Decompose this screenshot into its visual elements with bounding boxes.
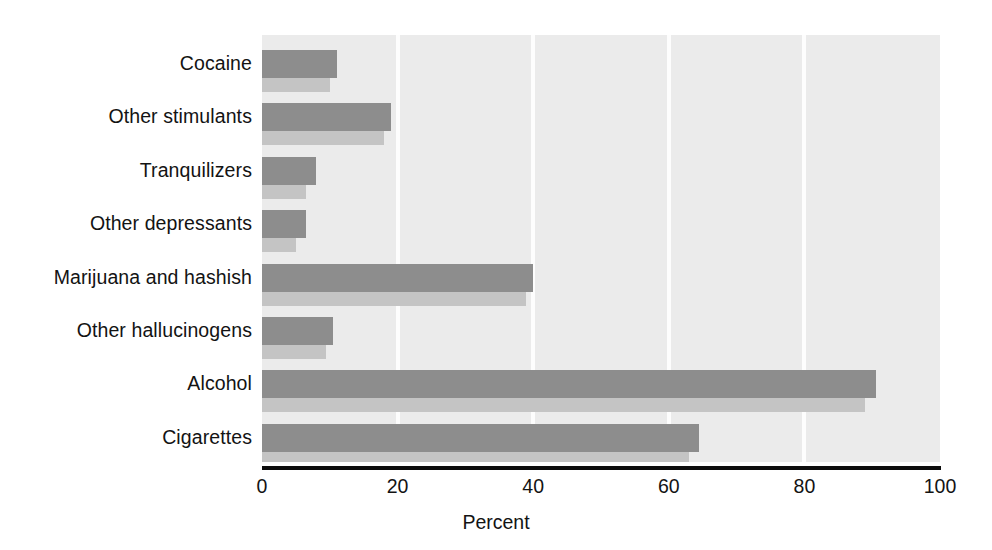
bar-series-1 bbox=[262, 370, 876, 398]
x-tick-label: 20 bbox=[387, 477, 409, 497]
category-label: Cocaine bbox=[0, 54, 252, 74]
x-tick-label: 0 bbox=[257, 477, 268, 497]
bar-series-1 bbox=[262, 103, 391, 131]
horizontal-bar-chart: CocaineOther stimulantsTranquilizersOthe… bbox=[0, 0, 992, 550]
category-label: Other depressants bbox=[0, 214, 252, 234]
category-label: Marijuana and hashish bbox=[0, 268, 252, 288]
bar-group bbox=[262, 88, 940, 141]
bar-series-1 bbox=[262, 50, 337, 78]
bar-group bbox=[262, 302, 940, 355]
category-label: Tranquilizers bbox=[0, 161, 252, 181]
x-axis-title-text: Percent bbox=[462, 511, 529, 533]
bar-group bbox=[262, 355, 940, 408]
x-tick-label: 40 bbox=[522, 477, 544, 497]
bar-series-1 bbox=[262, 157, 316, 185]
bar-series-1 bbox=[262, 210, 306, 238]
category-label: Alcohol bbox=[0, 374, 252, 394]
category-label: Other hallucinogens bbox=[0, 321, 252, 341]
x-tick-label: 60 bbox=[658, 477, 680, 497]
bar-group bbox=[262, 195, 940, 248]
category-label: Cigarettes bbox=[0, 428, 252, 448]
x-axis-line bbox=[262, 466, 941, 470]
bar-series-1 bbox=[262, 317, 333, 345]
category-label: Other stimulants bbox=[0, 107, 252, 127]
bar-group bbox=[262, 409, 940, 462]
bar-series-1 bbox=[262, 424, 699, 452]
x-tick-label: 80 bbox=[794, 477, 816, 497]
bar-series-2 bbox=[262, 452, 689, 462]
category-axis-labels: CocaineOther stimulantsTranquilizersOthe… bbox=[0, 35, 252, 462]
bar-group bbox=[262, 35, 940, 88]
bar-group bbox=[262, 249, 940, 302]
bar-series-1 bbox=[262, 264, 533, 292]
x-tick-label: 100 bbox=[924, 477, 957, 497]
bar-group bbox=[262, 142, 940, 195]
x-axis-title: Percent bbox=[0, 513, 992, 533]
plot-area bbox=[262, 35, 940, 462]
